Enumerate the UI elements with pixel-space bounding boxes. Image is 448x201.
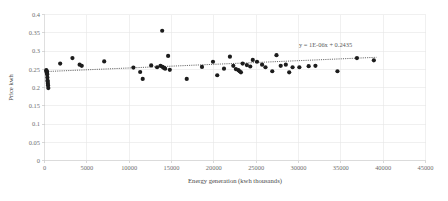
data-point: [290, 65, 294, 69]
data-point: [274, 53, 278, 57]
data-point: [231, 64, 235, 68]
x-tick-label: 5000: [80, 164, 93, 171]
data-point: [297, 65, 301, 69]
data-point: [163, 67, 167, 71]
data-point: [260, 63, 264, 67]
data-point: [284, 63, 288, 67]
data-point: [335, 69, 339, 73]
data-point: [372, 58, 376, 62]
data-point: [313, 64, 317, 68]
data-point: [160, 29, 164, 33]
y-axis-title: Price kwh: [7, 74, 14, 101]
x-tick-label: 45000: [418, 164, 434, 171]
data-point: [211, 60, 215, 64]
x-tick-label: 30000: [291, 164, 307, 171]
data-point: [80, 64, 84, 68]
data-point: [215, 73, 219, 77]
x-tick-label: 35000: [333, 164, 349, 171]
y-tick-label: 0.05: [29, 139, 40, 146]
x-tick-label: 10000: [121, 164, 137, 171]
data-point: [270, 69, 274, 73]
data-point: [46, 86, 50, 90]
data-point: [102, 59, 106, 63]
data-point: [131, 66, 135, 70]
x-axis-title: Energy generation (kwh thousands): [188, 177, 282, 185]
y-tick-label: 0.35: [29, 29, 40, 36]
x-tick-label: 0: [43, 164, 46, 171]
data-point: [166, 54, 170, 58]
y-tick-label: 0.2: [32, 84, 40, 91]
data-point: [263, 65, 267, 69]
data-point: [255, 60, 259, 64]
data-point: [279, 64, 283, 68]
x-tick-label: 25000: [248, 164, 264, 171]
data-point: [228, 55, 232, 59]
data-point: [241, 61, 245, 65]
data-point: [149, 63, 153, 67]
y-tick-label: 0: [37, 157, 40, 164]
x-tick-label: 40000: [375, 164, 391, 171]
data-point: [287, 70, 291, 74]
scatter-chart: 00.050.10.150.20.250.30.350.405000100001…: [0, 0, 448, 201]
data-point: [307, 64, 311, 68]
data-point: [70, 56, 74, 60]
trendline-equation: y = 1E-06x + 0.2435: [299, 41, 352, 48]
data-point: [185, 77, 189, 81]
y-tick-label: 0.15: [29, 102, 40, 109]
y-tick-label: 0.4: [32, 11, 41, 18]
data-point: [355, 56, 359, 60]
data-point: [168, 68, 172, 72]
data-point: [222, 67, 226, 71]
data-point: [248, 64, 252, 68]
y-tick-label: 0.3: [32, 47, 40, 54]
x-tick-label: 15000: [164, 164, 180, 171]
data-point: [200, 65, 204, 69]
y-tick-label: 0.25: [29, 66, 40, 73]
data-point: [141, 77, 145, 81]
plot-area: 00.050.10.150.20.250.30.350.405000100001…: [0, 0, 448, 201]
x-tick-label: 20000: [206, 164, 222, 171]
data-point: [138, 70, 142, 74]
data-point: [239, 70, 243, 74]
data-point: [58, 61, 62, 65]
data-point: [251, 58, 255, 62]
y-tick-label: 0.1: [32, 120, 40, 127]
